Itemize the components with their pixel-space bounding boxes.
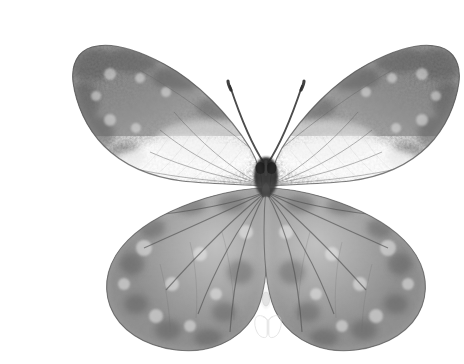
butterfly-specimen-image: Black and white photograph of a pinned b… [40, 16, 464, 364]
butterfly-specimen-svg [40, 16, 464, 364]
